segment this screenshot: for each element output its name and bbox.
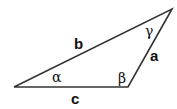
angle-label-alpha: α	[52, 69, 62, 85]
angle-label-gamma: γ	[145, 23, 153, 39]
side-label-a: a	[150, 47, 159, 64]
triangle-diagram: b a c α β γ	[0, 0, 177, 109]
angle-label-beta: β	[118, 70, 126, 86]
triangle-shape	[14, 9, 172, 87]
side-label-b: b	[74, 35, 83, 52]
side-label-c: c	[71, 90, 79, 107]
